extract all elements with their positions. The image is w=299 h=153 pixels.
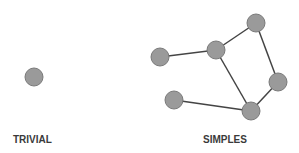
nodes-layer (25, 14, 287, 120)
graph-node-c (247, 14, 265, 32)
graph-diagram: TRIVIAL SIMPLES (0, 0, 299, 153)
graph-node-d (269, 73, 287, 91)
graph-node-t1 (25, 68, 43, 86)
edge-b-e (216, 50, 251, 111)
simple-graph-label: SIMPLES (203, 134, 247, 145)
trivial-graph-label: TRIVIAL (13, 134, 52, 145)
graph-node-b (207, 41, 225, 59)
edge-f-e (174, 100, 251, 111)
graph-node-a (151, 48, 169, 66)
graph-node-f (165, 91, 183, 109)
graph-node-e (242, 102, 260, 120)
